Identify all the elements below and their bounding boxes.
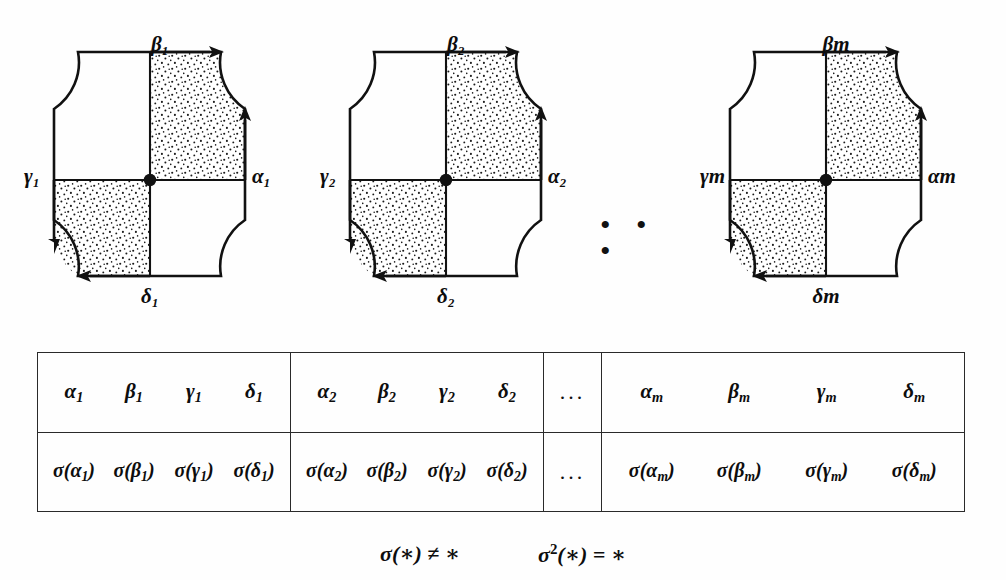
label-alpha-2: α₂ <box>548 166 567 187</box>
cell-alpha-1: α1 <box>44 381 104 404</box>
cell-alpha-2: α2 <box>297 381 357 404</box>
cell-delta-1: δ1 <box>224 381 284 404</box>
diagram-row-ellipsis: • • • <box>600 212 676 238</box>
table-block-ellipsis-bottom: ... <box>544 433 602 512</box>
cell-beta-2: β2 <box>357 381 417 404</box>
shaded-quadrant-top-right <box>150 52 245 180</box>
table-block-m-bottom: σ(αm) σ(βm) σ(γm) σ(δm) <box>602 433 964 512</box>
shaded-quadrant-top-right <box>826 52 921 180</box>
label-alpha-1: α₁ <box>252 166 271 187</box>
label-gamma-2: γ₂ <box>320 166 336 187</box>
pillow-diagram-2: β₂ α₂ γ₂ δ₂ <box>310 14 610 324</box>
shaded-quadrant-bottom-left <box>729 180 826 276</box>
basepoint-dot <box>440 174 452 186</box>
table-block-m-top: αm βm γm δm <box>602 353 964 432</box>
cell-sigma-delta-2: σ(δ2) <box>477 460 537 483</box>
label-beta-1: β₁ <box>151 34 169 55</box>
cell-sigma-alpha-1: σ(α1) <box>44 460 104 483</box>
cell-delta-2: δ2 <box>477 381 537 404</box>
cell-gamma-m: γm <box>783 381 871 404</box>
basepoint-dot <box>820 174 832 186</box>
label-beta-2: β₂ <box>447 34 465 55</box>
basepoint-dot <box>144 174 156 186</box>
figure-page: β₁ α₁ γ₁ δ₁ β₂ <box>0 0 1006 580</box>
cell-ellipsis-bottom: ... <box>560 459 586 485</box>
shaded-quadrant-bottom-left <box>53 180 150 276</box>
cell-alpha-m: αm <box>608 381 696 404</box>
table-block-1-top: α1 β1 γ1 δ1 <box>38 353 291 432</box>
cell-sigma-gamma-1: σ(γ1) <box>164 460 224 483</box>
formula-row: σ(∗) ≠ ∗ σ2(∗) = ∗ <box>0 534 1006 574</box>
cell-sigma-gamma-m: σ(γm) <box>783 460 871 483</box>
label-delta-1: δ₁ <box>141 286 159 307</box>
cell-ellipsis-top: ... <box>560 379 586 405</box>
cell-beta-m: βm <box>696 381 784 404</box>
label-delta-2: δ₂ <box>437 286 455 307</box>
pillow-diagram-1: β₁ α₁ γ₁ δ₁ <box>14 14 314 324</box>
table-row-images: σ(α1) σ(β1) σ(γ1) σ(δ1) σ(α2) σ(β2) σ(γ2… <box>38 433 964 512</box>
cell-sigma-gamma-2: σ(γ2) <box>417 460 477 483</box>
cell-sigma-alpha-m: σ(αm) <box>608 460 696 483</box>
cell-sigma-beta-1: σ(β1) <box>104 460 164 483</box>
shaded-quadrant-top-right <box>446 52 541 180</box>
permutation-table: α1 β1 γ1 δ1 α2 β2 γ2 δ2 ... αm βm γm δm <box>37 352 965 512</box>
cell-beta-1: β1 <box>104 381 164 404</box>
label-alpha-m: αm <box>928 166 956 187</box>
cell-gamma-1: γ1 <box>164 381 224 404</box>
formula-sigma-not-fixed: σ(∗) ≠ ∗ <box>380 543 460 565</box>
label-delta-m: δm <box>812 286 839 307</box>
cell-sigma-delta-1: σ(δ1) <box>224 460 284 483</box>
pillow-diagram-row: β₁ α₁ γ₁ δ₁ β₂ <box>0 0 1006 330</box>
table-block-ellipsis-top: ... <box>544 353 602 432</box>
cell-sigma-beta-2: σ(β2) <box>357 460 417 483</box>
table-row-generators: α1 β1 γ1 δ1 α2 β2 γ2 δ2 ... αm βm γm δm <box>38 353 964 433</box>
shaded-quadrant-bottom-left <box>349 180 446 276</box>
formula-sigma-squared-fixed: σ2(∗) = ∗ <box>538 542 626 566</box>
table-block-1-bottom: σ(α1) σ(β1) σ(γ1) σ(δ1) <box>38 433 291 512</box>
cell-sigma-alpha-2: σ(α2) <box>297 460 357 483</box>
table-block-2-top: α2 β2 γ2 δ2 <box>291 353 544 432</box>
label-beta-m: βm <box>822 34 849 55</box>
pillow-diagram-m: βm αm γm δm <box>690 14 990 324</box>
label-gamma-m: γm <box>700 166 725 187</box>
table-block-2-bottom: σ(α2) σ(β2) σ(γ2) σ(δ2) <box>291 433 544 512</box>
cell-sigma-beta-m: σ(βm) <box>696 460 784 483</box>
cell-sigma-delta-m: σ(δm) <box>871 460 959 483</box>
cell-delta-m: δm <box>871 381 959 404</box>
label-gamma-1: γ₁ <box>24 166 40 187</box>
cell-gamma-2: γ2 <box>417 381 477 404</box>
